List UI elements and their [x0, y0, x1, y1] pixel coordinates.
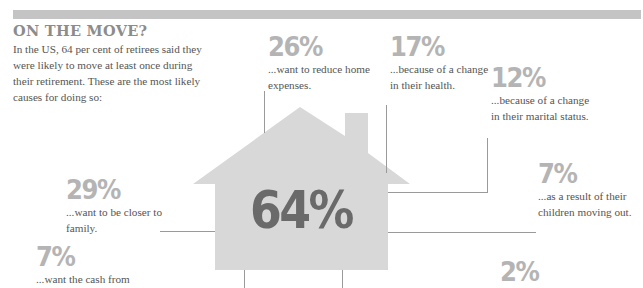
stat-value: 12% — [491, 64, 586, 92]
connector-line-bottom-right — [342, 270, 343, 288]
stat-other: 2% — [500, 258, 600, 286]
connector-line-29 — [160, 231, 215, 232]
stat-marital-status: 12% ...because of a change in their mari… — [491, 64, 596, 124]
connector-line-bottom-left — [244, 270, 245, 288]
stat-value: 17% — [390, 33, 485, 61]
connector-line-7-right — [388, 232, 536, 233]
stat-label: ...because of a change in their health. — [390, 61, 495, 93]
stat-label: ...want to be closer to family. — [66, 204, 166, 236]
stat-children-moving-out: 7% ...as a result of their children movi… — [538, 160, 643, 220]
stat-cash: 7% ...want the cash from — [36, 243, 166, 287]
connector-line-12-h — [388, 192, 488, 193]
connector-line-12 — [487, 138, 488, 192]
stat-label: ...want to reduce home expenses. — [268, 61, 388, 93]
stat-value: 7% — [36, 243, 153, 271]
total-percentage: 64% — [250, 180, 352, 240]
stat-value: 7% — [538, 160, 633, 188]
stat-label: ...as a result of their children moving … — [538, 188, 643, 220]
connector-line-17 — [386, 105, 387, 173]
stat-value: 29% — [66, 176, 156, 204]
stat-home-expenses: 26% ...want to reduce home expenses. — [268, 33, 388, 93]
stat-value: 2% — [500, 258, 590, 286]
stat-value: 26% — [268, 33, 376, 61]
stat-closer-to-family: 29% ...want to be closer to family. — [66, 176, 166, 236]
stat-label: ...because of a change in their marital … — [491, 92, 596, 124]
connector-line-26 — [264, 91, 265, 133]
stat-health: 17% ...because of a change in their heal… — [390, 33, 495, 93]
stat-label: ...want the cash from — [36, 271, 166, 287]
